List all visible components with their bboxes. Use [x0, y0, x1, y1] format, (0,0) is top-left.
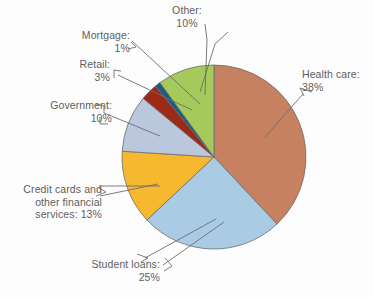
slice-label-student-loans: Student loans: 25%	[60, 258, 160, 283]
pie-slices-group	[122, 65, 306, 249]
leader-retail-tick2	[114, 70, 121, 71]
slice-label-government: Government: 10%	[18, 99, 112, 124]
slice-label-health-care: Health care: 38%	[302, 68, 372, 93]
slice-label-mortgage: Mortgage: 1%	[38, 29, 130, 54]
slice-label-credit-cards: Credit cards and other financial service…	[2, 183, 102, 221]
pie-chart-figure: Other: 10% Mortgage: 1% Retail: 3% Gover…	[0, 0, 373, 297]
slice-label-retail: Retail: 3%	[38, 58, 110, 83]
slice-label-other: Other: 10%	[148, 4, 226, 29]
